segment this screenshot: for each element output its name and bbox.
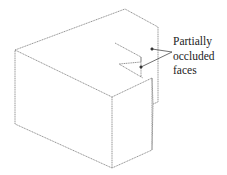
annotation-label: Partially occluded faces <box>173 34 215 78</box>
front-top-edge <box>15 50 153 168</box>
pointer-dot-1 <box>151 48 153 50</box>
pointer-line-2 <box>141 52 172 67</box>
pointer-line-1 <box>152 49 172 52</box>
pointer-dot-2 <box>140 66 142 68</box>
top-face-edge <box>15 9 158 104</box>
block-drawing <box>0 0 227 175</box>
annotation-line-1: Partially <box>173 34 215 49</box>
annotation-line-2: occluded <box>173 49 215 64</box>
diagram-canvas: Partially occluded faces <box>0 0 227 175</box>
annotation-line-3: faces <box>173 63 215 78</box>
notch-edge <box>115 43 143 78</box>
